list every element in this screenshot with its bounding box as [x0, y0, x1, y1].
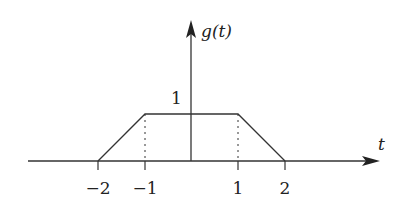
- x-tick-label: −1: [132, 178, 157, 198]
- x-tick-label: −2: [85, 178, 110, 198]
- function-label: g(t): [201, 21, 232, 41]
- trapezoid-signal-diagram: g(t) t 1 −2 −1 1 2: [0, 0, 405, 212]
- y-tick-label: 1: [171, 88, 182, 108]
- x-tick-label: 2: [280, 178, 291, 198]
- x-axis-label: t: [378, 134, 385, 154]
- x-tick-label: 1: [233, 178, 244, 198]
